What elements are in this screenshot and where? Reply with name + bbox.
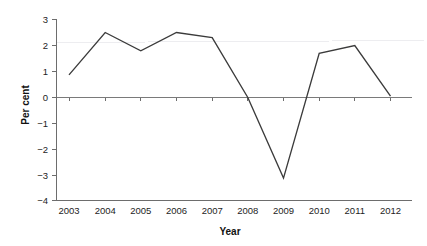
y-tick-label-1: 1 (43, 66, 48, 77)
x-tick-label-2008: 2008 (237, 205, 258, 216)
y-axis-tick-labels: 3 2 1 0 −1 −2 −3 −4 (37, 14, 48, 206)
line-chart: 3 2 1 0 −1 −2 −3 −4 2003 (0, 0, 427, 246)
x-tick-label-2009: 2009 (273, 205, 294, 216)
y-axis-title: Per cent (20, 85, 31, 125)
x-tick-label-2006: 2006 (166, 205, 187, 216)
x-tick-label-2007: 2007 (202, 205, 223, 216)
y-tick-label-minus2: −2 (37, 144, 48, 155)
x-tick-label-2011: 2011 (345, 205, 365, 216)
x-tick-label-2003: 2003 (58, 205, 79, 216)
y-tick-label-minus4: −4 (37, 195, 48, 206)
background-artifact-line (56, 41, 424, 43)
x-tick-label-2004: 2004 (95, 205, 116, 216)
x-axis-tick-labels: 2003 2004 2005 2006 2007 2008 2009 2010 … (58, 205, 401, 216)
x-tick-label-2010: 2010 (309, 205, 330, 216)
y-tick-label-minus1: −1 (37, 118, 48, 129)
y-tick-label-2: 2 (43, 40, 48, 51)
y-tick-label-minus3: −3 (37, 170, 48, 181)
x-tick-label-2012: 2012 (380, 205, 401, 216)
y-tick-label-3: 3 (43, 14, 48, 25)
y-axis-ticks (52, 20, 57, 201)
data-line-series (69, 33, 391, 179)
x-tick-label-2005: 2005 (130, 205, 151, 216)
chart-container: 3 2 1 0 −1 −2 −3 −4 2003 (0, 0, 427, 246)
x-axis-title: Year (219, 226, 240, 237)
y-tick-label-0: 0 (43, 92, 48, 103)
